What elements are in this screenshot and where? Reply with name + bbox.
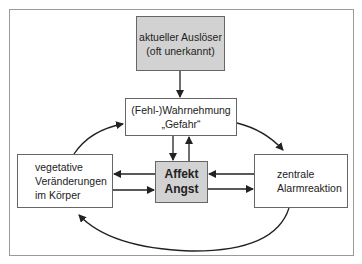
node-alarm-line-2: Alarmreaktion: [277, 181, 342, 195]
node-trigger: aktueller Auslöser (oft unerkannt): [136, 16, 225, 71]
node-affect: Affekt Angst: [155, 161, 208, 203]
node-affect-line-1: Affekt: [164, 167, 198, 182]
node-vegetative-line-3: im Körper: [35, 188, 81, 202]
node-trigger-line-2: (oft unerkannt): [146, 44, 214, 58]
arrow-perception-to-alarm: [237, 123, 283, 150]
arrow-vegetative-to-perception: [74, 124, 123, 154]
node-alarm: zentrale Alarmreaktion: [254, 154, 348, 208]
node-vegetative-line-2: Veränderungen: [35, 174, 107, 188]
node-alarm-line-1: zentrale: [277, 167, 314, 181]
node-vegetative-line-1: vegetative: [35, 160, 83, 174]
node-perception: (Fehl-)Wahrnehmung „Gefahr“: [125, 98, 237, 136]
node-affect-line-2: Angst: [165, 182, 199, 197]
arrow-alarm-to-vegetative: [79, 208, 289, 251]
node-perception-line-1: (Fehl-)Wahrnehmung: [131, 103, 230, 117]
node-perception-line-2: „Gefahr“: [161, 117, 200, 131]
node-trigger-line-1: aktueller Auslöser: [139, 30, 222, 44]
node-vegetative: vegetative Veränderungen im Körper: [17, 154, 113, 208]
